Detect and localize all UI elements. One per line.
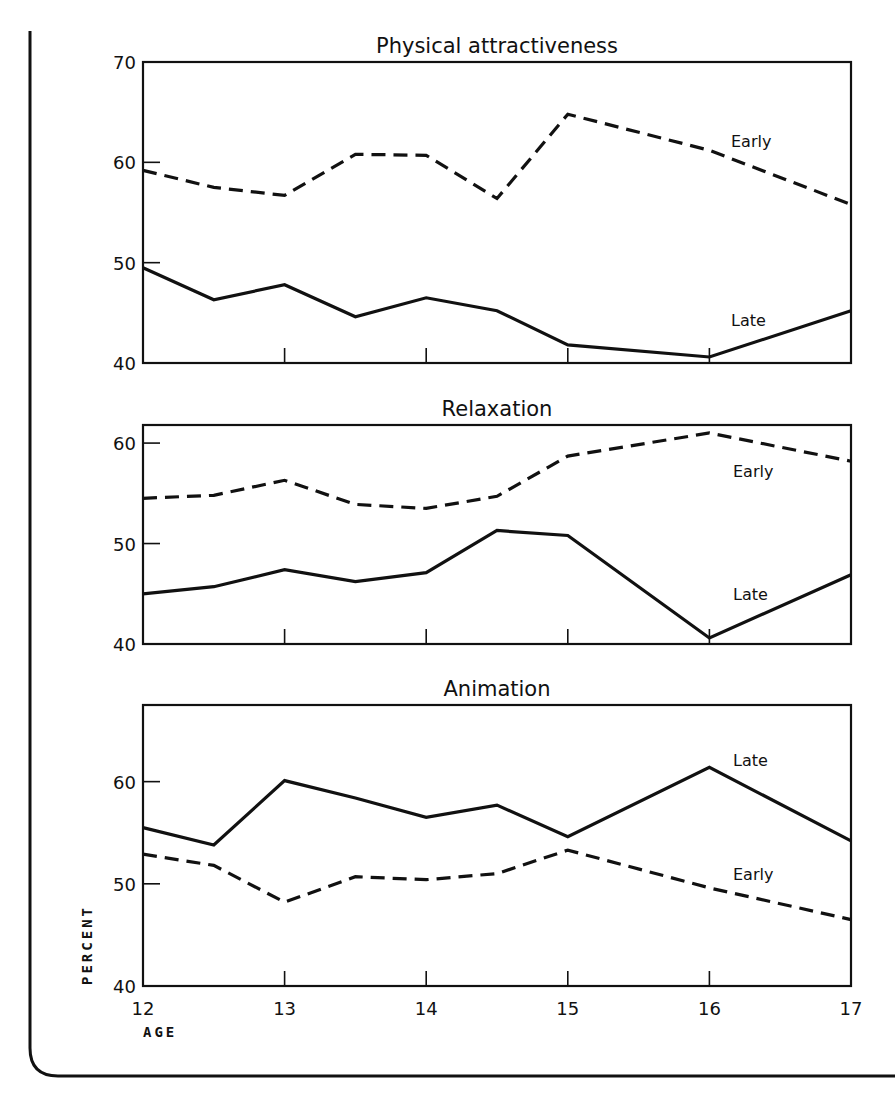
chart-panels: Physical attractiveness40506070EarlyLate… [113,34,862,1019]
x-tick-label: 14 [415,998,438,1019]
series-label-early: Early [731,132,771,151]
panel-title: Physical attractiveness [376,34,618,58]
y-tick-label: 60 [113,772,136,793]
y-tick-label: 50 [113,534,136,555]
chart-panel-animation: Animation405060121314151617LateEarly [113,677,862,1019]
y-tick-label: 50 [113,874,136,895]
x-tick-label: 17 [840,998,863,1019]
series-line-early [143,114,851,204]
y-tick-label: 60 [113,152,136,173]
figure-canvas: Physical attractiveness40506070EarlyLate… [0,0,895,1094]
series-label-early: Early [733,462,773,481]
series-label-late: Late [733,585,768,604]
series-label-late: Late [731,311,766,330]
series-label-late: Late [733,751,768,770]
series-line-late [143,767,851,845]
y-tick-label: 40 [113,634,136,655]
series-line-early [143,850,851,920]
series-label-early: Early [733,865,773,884]
x-axis-title: AGE [143,1024,177,1040]
plot-area-frame [143,425,851,644]
chart-panel-relaxation: Relaxation405060EarlyLate [113,397,851,655]
x-tick-label: 12 [132,998,155,1019]
page-frame [30,31,895,1076]
y-tick-label: 60 [113,433,136,454]
y-tick-label: 70 [113,52,136,73]
chart-panel-physical-attractiveness: Physical attractiveness40506070EarlyLate [113,34,851,374]
y-tick-label: 40 [113,353,136,374]
x-tick-label: 16 [698,998,721,1019]
panel-title: Animation [443,677,550,701]
x-tick-label: 13 [273,998,296,1019]
y-tick-label: 50 [113,253,136,274]
y-tick-label: 40 [113,976,136,997]
panel-title: Relaxation [442,397,553,421]
plot-area-frame [143,705,851,986]
x-tick-label: 15 [556,998,579,1019]
y-axis-title: PERCENT [79,905,95,985]
